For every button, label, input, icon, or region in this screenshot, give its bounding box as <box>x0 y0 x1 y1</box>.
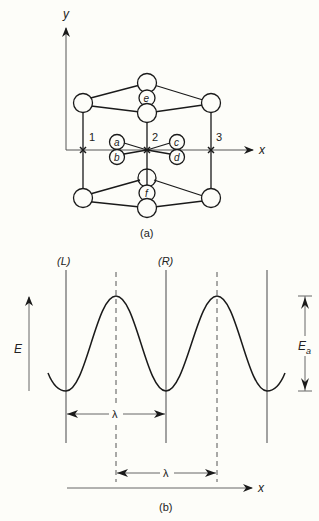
site-label-1: 1 <box>89 131 95 143</box>
x-axis-label: x <box>258 143 266 157</box>
label-a: a <box>114 137 120 148</box>
figure-a: y x <box>62 7 266 239</box>
caption-b: (b) <box>159 501 172 513</box>
label-d: d <box>174 152 180 163</box>
atom-top-right <box>202 94 221 113</box>
atom-bottom-right <box>202 189 221 208</box>
wavelength-label-1: λ <box>112 408 118 420</box>
wavelength-label-2: λ <box>163 467 169 479</box>
label-b: b <box>114 152 120 163</box>
caption-a: (a) <box>140 227 153 239</box>
energy-axis-label: E <box>14 342 23 356</box>
y-axis-label: y <box>62 7 70 21</box>
label-c: c <box>174 137 179 148</box>
atom-bottom-left <box>74 189 93 208</box>
site-label-2: 2 <box>152 131 158 143</box>
diffusion-diagram: y x <box>0 0 319 521</box>
atom-top-left <box>74 94 93 113</box>
position-axis-label: x <box>257 481 265 495</box>
site-label-3: 3 <box>216 131 222 143</box>
atom-bottom-stack-lower <box>138 199 157 218</box>
label-e: e <box>144 93 150 104</box>
figure-b: (L) (R) E Ea λ λ x <box>14 255 314 513</box>
atom-top-stack-lower <box>138 104 157 123</box>
plane-label-l: (L) <box>57 255 71 267</box>
plane-label-r: (R) <box>158 255 174 267</box>
